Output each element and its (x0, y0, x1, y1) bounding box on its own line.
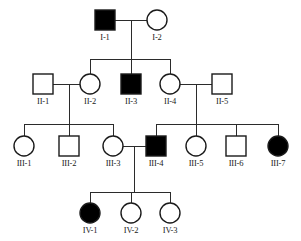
individual-label-IV-3: IV-3 (163, 225, 177, 235)
individual-label-III-1: III-1 (17, 158, 32, 168)
individual-label-III-5: III-5 (189, 158, 204, 168)
symbol-layer (14, 10, 288, 223)
individual-symbol-III-2[interactable] (59, 136, 79, 156)
individual-label-IV-2: IV-2 (124, 225, 138, 235)
individual-label-II-4: II-4 (164, 96, 176, 106)
individual-symbol-III-4[interactable] (146, 136, 166, 156)
individual-symbol-III-3[interactable] (103, 136, 123, 156)
individual-label-III-7: III-7 (271, 158, 286, 168)
individual-symbol-III-5[interactable] (186, 136, 206, 156)
individual-label-III-4: III-4 (149, 158, 164, 168)
individual-label-II-1: II-1 (37, 96, 49, 106)
pedigree-chart: I-1I-2II-1II-2II-3II-4II-5III-1III-2III-… (0, 0, 301, 241)
individual-symbol-I-1[interactable] (95, 10, 115, 30)
individual-label-II-3: II-3 (125, 96, 137, 106)
individual-symbol-III-7[interactable] (268, 136, 288, 156)
individual-symbol-IV-1[interactable] (80, 203, 100, 223)
individual-label-II-5: II-5 (216, 96, 228, 106)
individual-label-I-2: I-2 (152, 32, 161, 42)
individual-label-III-2: III-2 (62, 158, 77, 168)
individual-label-IV-1: IV-1 (83, 225, 97, 235)
individual-symbol-IV-2[interactable] (121, 203, 141, 223)
individual-symbol-II-4[interactable] (160, 74, 180, 94)
individual-label-III-6: III-6 (229, 158, 244, 168)
individual-symbol-I-2[interactable] (147, 10, 167, 30)
individual-label-I-1: I-1 (100, 32, 109, 42)
pedigree-diagram-canvas (0, 0, 301, 241)
connector-layer (24, 20, 278, 203)
individual-symbol-III-1[interactable] (14, 136, 34, 156)
individual-symbol-IV-3[interactable] (160, 203, 180, 223)
individual-symbol-II-5[interactable] (212, 74, 232, 94)
individual-symbol-III-6[interactable] (226, 136, 246, 156)
individual-symbol-II-2[interactable] (80, 74, 100, 94)
individual-label-III-3: III-3 (106, 158, 121, 168)
individual-symbol-II-1[interactable] (33, 74, 53, 94)
individual-label-II-2: II-2 (84, 96, 96, 106)
individual-symbol-II-3[interactable] (121, 74, 141, 94)
